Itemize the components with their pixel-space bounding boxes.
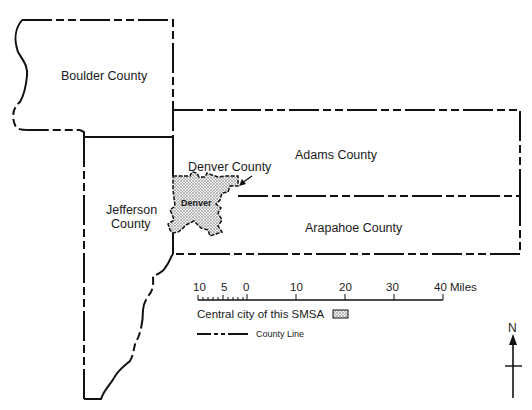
legend-stipple-swatch xyxy=(333,310,348,318)
denver-city-label: Denver xyxy=(181,198,212,208)
adams-county-label: Adams County xyxy=(295,148,378,162)
jefferson-county-label-line1: Jefferson xyxy=(106,203,157,217)
svg-text:20: 20 xyxy=(339,281,352,293)
svg-text:5: 5 xyxy=(221,281,227,293)
scale-bar: 10 5 0 10 20 30 40 Miles xyxy=(193,281,477,300)
north-arrow-icon: N xyxy=(505,321,522,398)
legend-central-city-label: Central city of this SMSA xyxy=(197,308,325,320)
jefferson-county xyxy=(84,137,173,399)
legend-county-line-label: County Line xyxy=(256,329,304,339)
legend: Central city of this SMSA County Line xyxy=(197,308,348,339)
boulder-county-label: Boulder County xyxy=(61,69,148,83)
jefferson-county-label-line2: County xyxy=(111,217,151,231)
svg-text:0: 0 xyxy=(243,281,249,293)
denver-county-arrow xyxy=(239,176,252,186)
smsa-map: Denver Denver County Boulder County Adam… xyxy=(0,0,532,410)
arapahoe-county-label: Arapahoe County xyxy=(305,221,403,235)
svg-text:30: 30 xyxy=(386,281,399,293)
svg-text:10: 10 xyxy=(193,281,206,293)
svg-text:10: 10 xyxy=(290,281,303,293)
svg-text:40 Miles: 40 Miles xyxy=(434,281,477,293)
svg-text:N: N xyxy=(508,321,517,335)
denver-county-label: Denver County xyxy=(188,160,272,174)
